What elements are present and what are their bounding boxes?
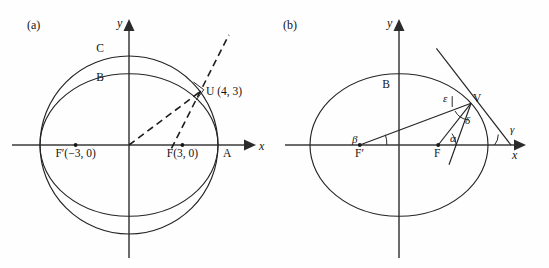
panel-a-label-B: B — [96, 71, 104, 83]
panel-b-y-axis-label: y — [386, 16, 393, 30]
panel-a-label-U: U (4, 3) — [206, 85, 242, 98]
panel-b-label-V: V — [473, 92, 482, 104]
panel-a-label-focus-right: F(3, 0) — [167, 147, 198, 160]
panel-b-label-B: B — [382, 78, 390, 90]
panel-b-label-epsilon: ε — [443, 92, 448, 104]
panel-b-angle-arc-beta — [385, 135, 386, 145]
panel-a-radius-ou — [129, 92, 200, 145]
panel-b-label-beta: β — [351, 133, 358, 145]
panel-a: (a) x y C B U (4, 3) — [12, 16, 265, 258]
panel-b-label-gamma: γ — [510, 123, 515, 135]
panel-a-y-axis-label: y — [116, 16, 123, 30]
figure-svg: (a) x y C B U (4, 3) — [0, 0, 549, 268]
panel-b-angle-arc-gamma — [495, 135, 499, 146]
panel-a-label-C: C — [96, 42, 104, 54]
panel-a-label-A: A — [223, 147, 232, 159]
panel-b-label-focus-right: F — [434, 147, 440, 159]
panel-b-tag: (b) — [283, 18, 297, 32]
panel-a-x-axis-arrowhead — [244, 140, 256, 151]
panel-b-label-alpha: α — [450, 132, 456, 144]
panel-b-x-axis-label: x — [511, 148, 518, 162]
panel-b-label-focus-left: F′ — [355, 147, 364, 159]
panel-a-tag: (a) — [27, 18, 40, 32]
panel-a-label-focus-left: F′(−3, 0) — [55, 147, 95, 160]
panel-a-x-axis-label: x — [258, 139, 265, 153]
figure-container: (a) x y C B U (4, 3) — [0, 0, 549, 268]
panel-b-y-axis-arrowhead — [394, 19, 405, 31]
panel-a-y-axis-arrowhead — [124, 19, 135, 31]
panel-b-label-delta: δ — [465, 114, 471, 126]
panel-b: (b) x y — [283, 16, 526, 258]
